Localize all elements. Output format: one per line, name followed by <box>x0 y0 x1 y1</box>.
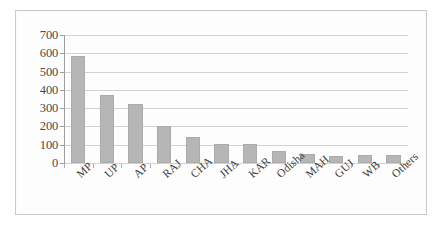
chart-frame: 7006005004003002001000 MPUPAPRAJCHAJHAKA… <box>15 10 427 215</box>
x-tick-label-mp: MP <box>74 160 95 180</box>
x-tick-mark <box>207 164 208 168</box>
y-tick-mark-400 <box>60 90 65 91</box>
x-axis-labels: MPUPAPRAJCHAJHAKAROdishaMAHGUJWBOthers <box>16 11 426 214</box>
x-tick-label-wb: WB <box>360 158 382 179</box>
y-tick-mark-500 <box>60 72 65 73</box>
x-tick-label-raj: RAJ <box>160 157 183 180</box>
x-tick-label-mah: MAH <box>303 153 331 180</box>
x-tick-mark <box>179 164 180 168</box>
x-tick-mark <box>265 164 266 168</box>
x-tick-mark <box>351 164 352 168</box>
x-tick-mark <box>64 164 65 168</box>
y-tick-mark-100 <box>60 145 65 146</box>
x-tick-mark <box>121 164 122 168</box>
x-tick-mark <box>236 164 237 168</box>
y-tick-mark-700 <box>60 35 65 36</box>
y-tick-mark-600 <box>60 53 65 54</box>
x-tick-mark <box>322 164 323 168</box>
x-tick-label-odisha: Odisha <box>274 149 307 180</box>
x-tick-mark <box>93 164 94 168</box>
x-tick-label-up: UP <box>102 161 121 180</box>
x-tick-label-others: Others <box>389 150 420 180</box>
y-tick-mark-200 <box>60 126 65 127</box>
x-tick-mark <box>150 164 151 168</box>
x-tick-mark <box>408 164 409 168</box>
x-tick-label-ap: AP <box>131 161 150 180</box>
x-tick-label-jha: JHA <box>217 157 241 180</box>
y-tick-mark-300 <box>60 108 65 109</box>
x-tick-mark <box>293 164 294 168</box>
x-tick-label-guj: GUJ <box>332 157 356 180</box>
x-tick-mark <box>379 164 380 168</box>
x-tick-label-cha: CHA <box>188 155 214 180</box>
x-tick-label-kar: KAR <box>246 155 272 180</box>
